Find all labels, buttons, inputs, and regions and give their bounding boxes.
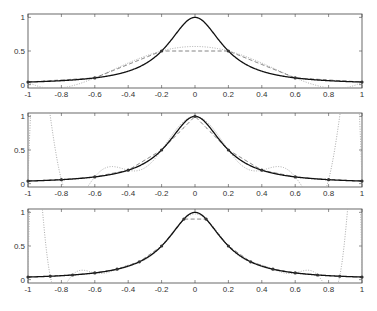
x-tick-label: -0.2	[155, 285, 169, 294]
y-tick-label: 0.5	[14, 47, 26, 56]
node-marker	[271, 268, 274, 271]
x-tick-label: 0.8	[323, 90, 335, 99]
x-tick-label: -0.8	[55, 189, 69, 198]
panel-2: -1-0.8-0.6-0.4-0.200.20.40.60.8100.51	[14, 52, 365, 201]
panel-1: -1-0.8-0.6-0.4-0.200.20.40.60.8100.51	[14, 13, 365, 99]
x-tick-label: 0.4	[256, 90, 268, 99]
x-tick-label: -1	[24, 189, 32, 198]
node-marker	[93, 271, 96, 274]
node-marker	[316, 273, 319, 276]
linear-interpolant-line	[28, 219, 362, 277]
node-marker	[26, 179, 29, 182]
y-tick-label: 0	[21, 81, 26, 90]
node-marker	[360, 80, 363, 83]
node-marker	[160, 148, 163, 151]
y-tick-label: 1	[21, 208, 26, 217]
figure: -1-0.8-0.6-0.4-0.200.20.40.60.8100.51-1-…	[0, 0, 377, 311]
x-tick-label: 0.4	[256, 189, 268, 198]
node-marker	[360, 275, 363, 278]
node-marker	[71, 273, 74, 276]
node-marker	[193, 115, 196, 118]
polynomial-interpolant-line	[28, 46, 362, 88]
node-marker	[160, 49, 163, 52]
node-marker	[182, 217, 185, 220]
x-tick-label: -0.6	[88, 285, 102, 294]
x-tick-label: 0.2	[223, 189, 235, 198]
node-marker	[227, 49, 230, 52]
x-tick-label: 0	[193, 189, 198, 198]
x-tick-label: 0.4	[256, 285, 268, 294]
node-marker	[60, 178, 63, 181]
linear-interpolant-line	[28, 51, 362, 82]
node-marker	[93, 175, 96, 178]
y-tick-label: 0.5	[14, 242, 26, 251]
x-tick-label: 1	[360, 189, 365, 198]
x-tick-label: -0.4	[121, 285, 135, 294]
node-marker	[360, 179, 363, 182]
node-marker	[249, 260, 252, 263]
x-tick-label: 1	[360, 285, 365, 294]
node-marker	[227, 244, 230, 247]
x-tick-label: -1	[24, 285, 32, 294]
x-tick-label: 0.2	[223, 90, 235, 99]
node-marker	[49, 275, 52, 278]
polynomial-interpolant-line	[28, 135, 362, 293]
y-tick-label: 1	[21, 112, 26, 121]
x-tick-label: 0.8	[323, 189, 335, 198]
x-tick-label: 0.8	[323, 285, 335, 294]
node-marker	[26, 275, 29, 278]
runge-function-line	[28, 17, 362, 82]
x-tick-label: 1	[360, 90, 365, 99]
x-tick-label: -0.6	[88, 90, 102, 99]
node-marker	[327, 178, 330, 181]
node-marker	[294, 175, 297, 178]
y-tick-label: 0	[21, 180, 26, 189]
panel-3: -1-0.8-0.6-0.4-0.200.20.40.60.8100.51	[14, 135, 365, 294]
x-tick-label: 0	[193, 285, 198, 294]
x-tick-label: -0.2	[155, 90, 169, 99]
x-tick-label: -0.2	[155, 189, 169, 198]
node-marker	[205, 217, 208, 220]
node-marker	[160, 244, 163, 247]
node-marker	[93, 76, 96, 79]
node-marker	[127, 169, 130, 172]
x-tick-label: 0.6	[290, 285, 302, 294]
x-tick-label: 0.6	[290, 90, 302, 99]
runge-function-line	[28, 116, 362, 181]
node-marker	[115, 268, 118, 271]
node-marker	[338, 275, 341, 278]
node-marker	[294, 271, 297, 274]
node-marker	[26, 80, 29, 83]
y-tick-label: 1	[21, 13, 26, 22]
x-tick-label: -1	[24, 90, 32, 99]
linear-interpolant-line	[28, 116, 362, 181]
node-marker	[260, 169, 263, 172]
x-tick-label: 0.6	[290, 189, 302, 198]
x-tick-label: -0.6	[88, 189, 102, 198]
node-marker	[294, 76, 297, 79]
x-tick-label: -0.4	[121, 90, 135, 99]
axes-frame	[28, 209, 362, 283]
x-tick-label: 0.2	[223, 285, 235, 294]
runge-function-line	[28, 212, 362, 277]
x-tick-label: 0	[193, 90, 198, 99]
y-tick-label: 0.5	[14, 146, 26, 155]
node-marker	[138, 260, 141, 263]
x-tick-label: -0.8	[55, 285, 69, 294]
y-tick-label: 0	[21, 276, 26, 285]
x-tick-label: -0.8	[55, 90, 69, 99]
node-marker	[227, 148, 230, 151]
x-tick-label: -0.4	[121, 189, 135, 198]
axes-frame	[28, 113, 362, 187]
